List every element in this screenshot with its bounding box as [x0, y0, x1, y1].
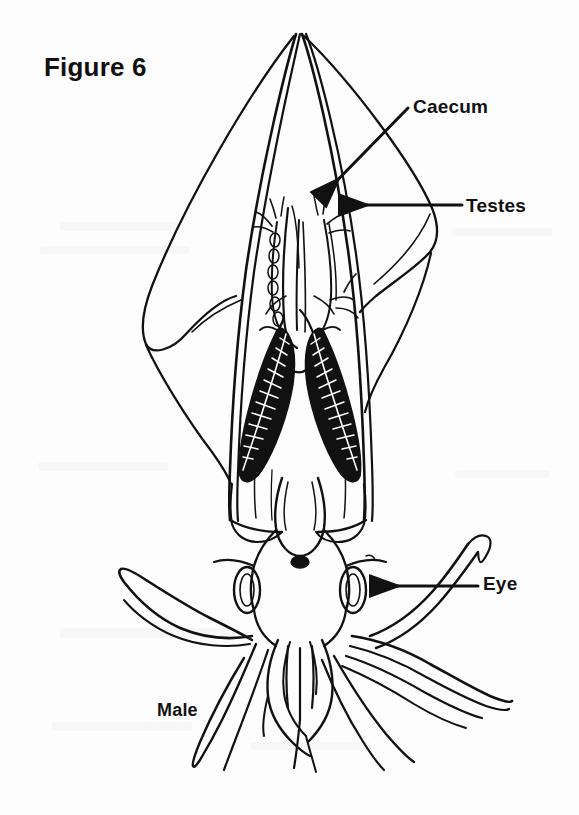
figure-caption-male: Male: [157, 700, 198, 721]
figure-page: Figure 6 Caecum Testes Eye Male: [0, 0, 579, 815]
figure-title: Figure 6: [44, 52, 147, 83]
annotation-label-eye: Eye: [483, 573, 517, 595]
annotation-label-caecum: Caecum: [413, 96, 488, 118]
squid-anatomy-illustration: [0, 0, 579, 815]
annotation-label-testes: Testes: [466, 195, 526, 217]
